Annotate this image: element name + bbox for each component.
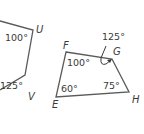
vertex-label-u: U [36,24,44,35]
quadrilateral-efgh: F G H E 100° 125° 75° 60° [52,31,140,110]
angle-label-e: 60° [61,83,78,94]
geometry-diagram: U V 100° 125° F G H E 100° 125° 75° 60° [0,0,144,134]
vertex-label-v: V [28,91,36,102]
angle-label-f: 100° [67,57,90,68]
angle-label-h: 75° [103,80,120,91]
angle-label-v: 125° [0,80,23,91]
angle-label-g-exterior: 125° [102,31,125,42]
vertex-label-h: H [132,94,140,105]
vertex-label-f: F [63,40,69,51]
angle-label-u: 100° [5,32,28,43]
left-polygon: U V 100° 125° [0,21,44,102]
vertex-label-e: E [52,99,59,110]
vertex-label-g: G [113,46,121,57]
